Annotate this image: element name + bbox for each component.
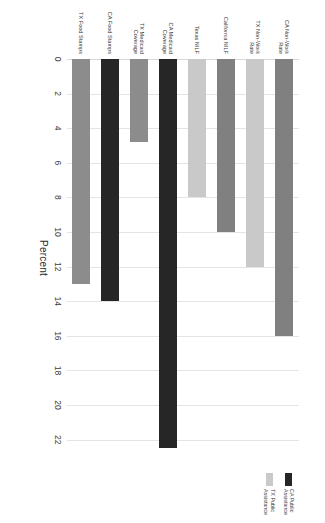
- tick-label: 6: [53, 160, 63, 165]
- bar: [218, 59, 236, 232]
- tick-label: 8: [53, 195, 63, 200]
- legend-label: CA Public Assistance: [283, 489, 295, 515]
- bar: [102, 59, 120, 301]
- tick-label: 20: [53, 400, 63, 409]
- tick-label: 0: [53, 57, 63, 62]
- bar-row: [276, 59, 294, 457]
- category-label: TX Food Stamps: [78, 7, 84, 57]
- bar-row: [218, 59, 236, 457]
- rotated-chart-stage: 0246810121416182022 Percent CA Non-Work …: [8, 7, 315, 512]
- category-label: CA Food Stamps: [107, 7, 113, 57]
- tick-label: 22: [53, 435, 63, 444]
- bar-row: [73, 59, 91, 457]
- category-label: Texas NILF: [194, 7, 200, 57]
- tick-label: 2: [53, 91, 63, 96]
- bar-chart: 0246810121416182022 Percent CA Non-Work …: [8, 7, 315, 512]
- bar-row: [102, 59, 120, 457]
- chart-legend: CA Public AssistanceTX Public Assistance: [256, 473, 295, 511]
- tick-label: 14: [53, 297, 63, 306]
- bar: [131, 59, 149, 142]
- chart-screenshot: 0246810121416182022 Percent CA Non-Work …: [0, 0, 325, 523]
- legend-item[interactable]: TX Public Assistance: [263, 473, 275, 511]
- bar: [160, 59, 178, 448]
- category-label: California NILF: [223, 7, 229, 57]
- bar-row: [160, 59, 178, 457]
- legend-swatch-icon: [285, 473, 292, 486]
- bar: [276, 59, 294, 336]
- bar: [189, 59, 207, 197]
- legend-swatch-icon: [266, 473, 273, 486]
- category-label: CA Medicaid Coverage: [162, 7, 175, 57]
- tick-label: 10: [53, 227, 63, 236]
- bar-row: [247, 59, 265, 457]
- legend-label: TX Public Assistance: [263, 489, 275, 515]
- bar: [247, 59, 265, 267]
- bar-row: [131, 59, 149, 457]
- legend-item[interactable]: CA Public Assistance: [283, 473, 295, 511]
- tick-label: 12: [53, 262, 63, 271]
- tick-label: 16: [53, 331, 63, 340]
- bar-row: [189, 59, 207, 457]
- category-label: CA Non-Work Rate: [278, 7, 291, 57]
- category-label: TX Medicaid Coverage: [133, 7, 146, 57]
- value-axis-title: Percent: [38, 240, 49, 276]
- tick-label: 18: [53, 366, 63, 375]
- plot-area: [67, 59, 299, 457]
- category-label: TX Non-Work Rate: [249, 7, 262, 57]
- bar: [73, 59, 91, 284]
- tick-label: 4: [53, 126, 63, 131]
